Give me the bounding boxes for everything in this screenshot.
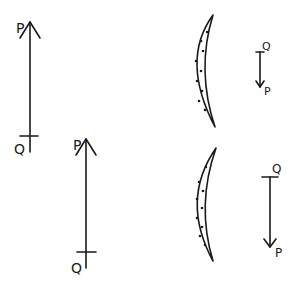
label-q: Q <box>272 162 281 176</box>
optics-diagram: P Q P Q Q <box>0 0 295 284</box>
label-q: Q <box>71 260 82 276</box>
meniscus-lens-2 <box>196 148 216 261</box>
label-q: Q <box>14 141 25 157</box>
label-p: P <box>275 246 282 260</box>
object-arrow-2: P Q <box>71 137 96 276</box>
label-p: P <box>16 20 24 36</box>
meniscus-lens-1 <box>195 15 215 127</box>
label-p: P <box>264 85 271 98</box>
label-p: P <box>73 137 81 153</box>
object-arrow-1: P Q <box>14 20 40 157</box>
image-arrow-2: Q P <box>262 162 282 260</box>
label-q: Q <box>262 40 271 53</box>
image-arrow-1: Q P <box>256 40 271 98</box>
